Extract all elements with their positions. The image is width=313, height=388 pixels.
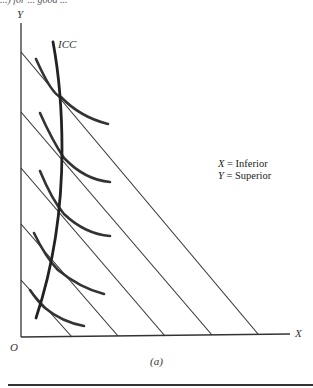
caption: (a): [150, 355, 163, 367]
origin-label: O: [10, 341, 18, 353]
x-axis-label: X: [295, 327, 302, 339]
diagram: [0, 0, 313, 388]
divider: [8, 384, 313, 386]
legend-item-x: X = Inferior: [218, 158, 271, 170]
icc-label: ICC: [58, 38, 76, 50]
legend: X = Inferior Y = Superior: [218, 158, 271, 182]
legend-item-y: Y = Superior: [218, 170, 271, 182]
y-axis-label: Y: [17, 8, 23, 20]
